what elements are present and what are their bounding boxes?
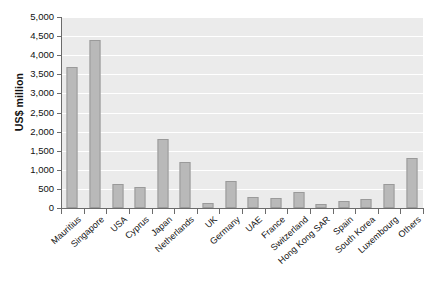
y-axis-tick-label: 3,000 bbox=[30, 89, 54, 99]
bar-chart-figure: US$ million 05001,0001,5002,0002,5003,00… bbox=[0, 0, 432, 281]
bar-slot bbox=[265, 17, 288, 208]
x-axis-tick bbox=[152, 209, 153, 214]
x-axis-tick bbox=[129, 209, 130, 214]
x-axis-labels: MauritiusSingaporeUSACyprusJapanNetherla… bbox=[61, 215, 423, 277]
y-axis-title: US$ million bbox=[13, 37, 25, 167]
x-axis-tick bbox=[219, 209, 220, 214]
x-axis-tick bbox=[333, 209, 334, 214]
bar[interactable] bbox=[406, 158, 417, 208]
x-axis-tick bbox=[106, 209, 107, 214]
figure-caption bbox=[96, 272, 432, 281]
y-axis-tick-label: 1,500 bbox=[30, 146, 54, 156]
y-axis-tick-label: 1,000 bbox=[30, 165, 54, 175]
bar-slot bbox=[84, 17, 107, 208]
x-axis-tick bbox=[310, 209, 311, 214]
bar-slot bbox=[287, 17, 310, 208]
x-axis-tick bbox=[287, 209, 288, 214]
x-axis-tick bbox=[423, 209, 424, 214]
y-axis-tick-label: 500 bbox=[38, 184, 54, 194]
bar[interactable] bbox=[135, 187, 146, 208]
x-axis-tick bbox=[84, 209, 85, 214]
bar[interactable] bbox=[384, 184, 395, 208]
bar[interactable] bbox=[157, 139, 168, 208]
x-axis-tick-label: Cyprus bbox=[124, 215, 151, 241]
bar-slot bbox=[106, 17, 129, 208]
x-axis-tick bbox=[400, 209, 401, 214]
x-axis-tick-label: UK bbox=[204, 215, 219, 230]
bar[interactable] bbox=[180, 162, 191, 208]
bar[interactable] bbox=[225, 181, 236, 208]
bar[interactable] bbox=[361, 199, 372, 208]
x-axis-tick bbox=[197, 209, 198, 214]
y-axis-tick-label: 0 bbox=[49, 203, 54, 213]
bars-layer bbox=[61, 17, 423, 208]
bar[interactable] bbox=[293, 192, 304, 208]
y-axis-tick-label: 4,500 bbox=[30, 31, 54, 41]
bar-slot bbox=[355, 17, 378, 208]
bar-slot bbox=[310, 17, 333, 208]
bar-slot bbox=[197, 17, 220, 208]
bar[interactable] bbox=[89, 40, 100, 208]
bar-slot bbox=[333, 17, 356, 208]
x-axis-tick bbox=[355, 209, 356, 214]
x-axis-tick bbox=[242, 209, 243, 214]
bar-slot bbox=[219, 17, 242, 208]
bar-slot bbox=[61, 17, 84, 208]
bar-slot bbox=[129, 17, 152, 208]
bar[interactable] bbox=[112, 184, 123, 208]
x-axis-tick-label: Others bbox=[397, 215, 423, 240]
bar-slot bbox=[400, 17, 423, 208]
x-axis-tick bbox=[61, 209, 62, 214]
y-axis-tick-label: 2,000 bbox=[30, 127, 54, 137]
y-axis-tick-label: 5,000 bbox=[30, 12, 54, 22]
y-axis-tick-label: 2,500 bbox=[30, 108, 54, 118]
y-axis-tick-label: 4,000 bbox=[30, 50, 54, 60]
bar-slot bbox=[174, 17, 197, 208]
x-axis-tick bbox=[174, 209, 175, 214]
x-axis-tick bbox=[378, 209, 379, 214]
bar-slot bbox=[378, 17, 401, 208]
y-axis-tick-label: 3,500 bbox=[30, 70, 54, 80]
bar[interactable] bbox=[203, 203, 214, 208]
bar[interactable] bbox=[270, 198, 281, 208]
bar[interactable] bbox=[338, 201, 349, 208]
x-axis-tick bbox=[265, 209, 266, 214]
bar-slot bbox=[242, 17, 265, 208]
bar[interactable] bbox=[316, 204, 327, 208]
bar[interactable] bbox=[67, 67, 78, 208]
bar-slot bbox=[152, 17, 175, 208]
bar[interactable] bbox=[248, 197, 259, 208]
